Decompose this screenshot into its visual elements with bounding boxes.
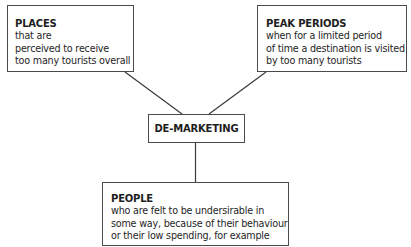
places-title: PLACES [15, 17, 133, 30]
peak-periods-desc-line: by too many tourists [266, 55, 406, 68]
peak-periods-box: PEAK PERIODS when for a limited period o… [257, 5, 407, 72]
connector-peak-periods [209, 72, 266, 114]
places-desc-line: too many tourists overall [15, 55, 133, 68]
de-marketing-label: DE-MARKETING [155, 122, 239, 135]
people-desc-line: who are felt to be undersirable in [111, 205, 288, 218]
people-box: PEOPLE who are felt to be undersirable i… [102, 182, 289, 246]
people-desc-line: some way, because of their behaviour [111, 218, 288, 231]
peak-periods-desc-line: when for a limited period [266, 30, 406, 43]
places-box: PLACES that are perceived to receive too… [7, 5, 134, 72]
people-desc-line: or their low spending, for example [111, 230, 288, 243]
de-marketing-box: DE-MARKETING [148, 114, 245, 143]
places-desc-line: that are [15, 30, 133, 43]
connector-places [125, 72, 182, 114]
peak-periods-desc-line: of time a destination is visited [266, 43, 406, 56]
places-desc-line: perceived to receive [15, 43, 133, 56]
peak-periods-title: PEAK PERIODS [266, 17, 406, 30]
people-title: PEOPLE [111, 192, 288, 205]
